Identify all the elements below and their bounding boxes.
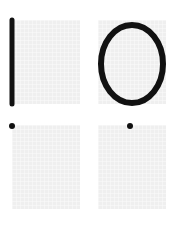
ellipse-shape — [98, 20, 166, 104]
dot-shape — [98, 125, 166, 209]
vertical-line-shape — [12, 20, 80, 104]
panel-bottom-right — [98, 125, 166, 209]
dot-shape — [12, 125, 80, 209]
panel-top-left — [12, 20, 80, 104]
panel-bottom-left — [12, 125, 80, 209]
panel-top-right — [98, 20, 166, 104]
